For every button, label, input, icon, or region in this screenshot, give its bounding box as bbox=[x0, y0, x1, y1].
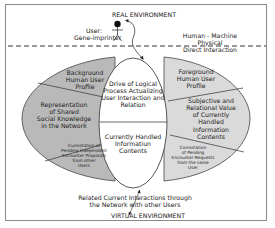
text-line: Contents bbox=[178, 133, 244, 140]
user-label-line1: User: bbox=[74, 27, 114, 34]
right-segment-2-label: Subjective and Relational Value of Curre… bbox=[178, 97, 244, 140]
interface-line2: Physical bbox=[170, 39, 250, 46]
text-line: Currently Handled bbox=[101, 133, 165, 140]
center-bottom-label: Currently Handled Informatiun Contents bbox=[101, 133, 165, 154]
human-machine-interaction-label: Human - Machine Physical Direct Interact… bbox=[170, 32, 250, 53]
text-line: Representation bbox=[28, 101, 100, 108]
left-segment-2-label: Representation of Shared Social Knowledg… bbox=[28, 101, 100, 130]
text-line: User bbox=[168, 166, 218, 171]
text-line: of Currently bbox=[178, 111, 244, 118]
virtual-environment-label: VIRTUAL ENVIRONMENT bbox=[111, 212, 185, 219]
related-interactions-label: Related Current Interactions through the… bbox=[70, 194, 200, 208]
text-line: Contents bbox=[101, 147, 165, 154]
user-label-line2: Gene-imprinter bbox=[74, 34, 114, 41]
text-line: Human User bbox=[171, 75, 221, 82]
text-line: the Network with other Users bbox=[70, 201, 200, 208]
text-line: Social Knowledge bbox=[28, 115, 100, 122]
text-line: Informatiun bbox=[101, 140, 165, 147]
interaction-arrow-icon bbox=[125, 19, 144, 60]
interface-line3: Direct Interaction bbox=[170, 46, 250, 53]
user-label: User: Gene-imprinter bbox=[74, 27, 114, 41]
text-line: Process Actualizing bbox=[101, 87, 165, 94]
text-line: Users bbox=[58, 164, 110, 169]
text-line: Drive of Logical bbox=[101, 80, 165, 87]
center-top-label: Drive of Logical Process Actualizing Use… bbox=[101, 80, 165, 109]
text-line: Subjective and bbox=[178, 97, 244, 104]
interface-line1: Human - Machine bbox=[170, 32, 250, 39]
text-line: of Shared bbox=[28, 108, 100, 115]
text-line: Related Current Interactions through bbox=[70, 194, 200, 201]
text-line: Relation bbox=[101, 101, 165, 108]
text-line: Foreground bbox=[171, 68, 221, 75]
text-line: Information bbox=[178, 126, 244, 133]
text-line: Background bbox=[60, 69, 110, 76]
real-environment-label: REAL ENVIRONMENT bbox=[112, 11, 176, 18]
text-line: Relational Value bbox=[178, 104, 244, 111]
right-segment-3-label: Connotation of Pending Encounter Request… bbox=[168, 146, 218, 171]
text-line: Handled bbox=[178, 118, 244, 125]
text-line: in the Network bbox=[28, 122, 100, 129]
text-line: Profile bbox=[171, 82, 221, 89]
right-segment-1-label: Foreground Human User Profile bbox=[171, 68, 221, 89]
text-line: User Interaction and bbox=[101, 94, 165, 101]
